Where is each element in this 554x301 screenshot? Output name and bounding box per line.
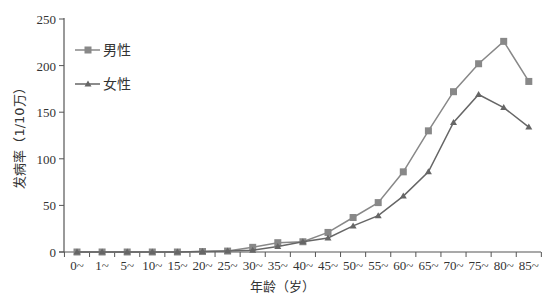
x-tick-label: 55~ (368, 258, 388, 273)
x-tick-label: 10~ (142, 258, 162, 273)
legend-label: 女性 (103, 76, 131, 92)
x-tick-label: 1~ (95, 258, 109, 273)
x-tick-label: 15~ (167, 258, 187, 273)
y-tick-label: 150 (37, 105, 57, 120)
x-tick-label: 0~ (70, 258, 84, 273)
x-tick-label: 70~ (443, 258, 463, 273)
y-tick-label: 50 (43, 198, 56, 213)
legend: 男性女性 (75, 42, 131, 92)
y-axis: 050100150200250 (37, 12, 65, 260)
incidence-line-chart: 050100150200250 0~1~5~10~15~20~25~30~35~… (0, 0, 554, 301)
x-axis: 0~1~5~10~15~20~25~30~35~40~45~50~55~60~6… (59, 252, 541, 273)
square-marker-icon (85, 47, 92, 54)
series-line (77, 94, 529, 252)
data-point-marker (475, 60, 482, 67)
x-tick-label: 30~ (243, 258, 263, 273)
legend-label: 男性 (103, 42, 131, 58)
data-point-marker (375, 199, 382, 206)
legend-item-male: 男性 (75, 42, 131, 58)
x-axis-title: 年龄（岁） (250, 279, 315, 294)
data-point-marker (475, 91, 482, 97)
y-tick-label: 100 (37, 152, 57, 167)
x-tick-label: 75~ (469, 258, 489, 273)
x-tick-label: 45~ (318, 258, 338, 273)
x-tick-label: 35~ (268, 258, 288, 273)
series-line (77, 41, 529, 252)
series-male (74, 38, 533, 256)
data-point-marker (350, 214, 357, 221)
x-tick-label: 5~ (120, 258, 134, 273)
y-tick-label: 200 (37, 59, 57, 74)
series-female (74, 91, 533, 255)
x-tick-label: 40~ (293, 258, 313, 273)
x-tick-label: 80~ (494, 258, 514, 273)
legend-item-female: 女性 (75, 76, 131, 92)
data-point-marker (450, 88, 457, 95)
data-point-marker (425, 127, 432, 134)
data-point-marker (500, 38, 507, 45)
x-tick-label: 60~ (393, 258, 413, 273)
x-tick-label: 20~ (192, 258, 212, 273)
data-point-marker (425, 168, 432, 174)
y-axis-title: 发病率（1/10万） (12, 81, 27, 188)
x-tick-label: 85~ (519, 258, 539, 273)
x-tick-label: 65~ (418, 258, 438, 273)
data-point-marker (400, 168, 407, 175)
y-tick-label: 0 (50, 245, 57, 260)
series-layer (74, 38, 533, 256)
x-tick-label: 25~ (218, 258, 238, 273)
data-point-marker (525, 78, 532, 85)
x-tick-label: 50~ (343, 258, 363, 273)
y-tick-label: 250 (37, 12, 57, 27)
